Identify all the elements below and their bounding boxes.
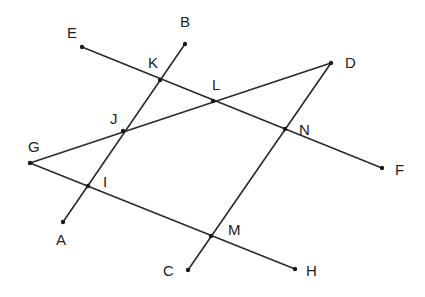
label-d: D xyxy=(345,54,356,71)
label-f: F xyxy=(395,161,404,178)
point-e xyxy=(80,45,84,49)
label-a: A xyxy=(56,231,66,248)
point-d xyxy=(329,61,333,65)
label-e: E xyxy=(67,24,77,41)
label-l: L xyxy=(212,76,220,93)
label-i: I xyxy=(103,173,107,190)
point-m xyxy=(209,234,213,238)
label-b: B xyxy=(180,13,190,30)
label-m: M xyxy=(228,221,241,238)
label-k: K xyxy=(148,54,158,71)
label-h: H xyxy=(306,262,317,279)
segment-gd xyxy=(30,63,331,163)
label-g: G xyxy=(28,138,40,155)
point-f xyxy=(380,166,384,170)
point-l xyxy=(211,99,215,103)
label-j: J xyxy=(110,110,118,127)
geometry-diagram: ABCDEFGHIJKLMN xyxy=(0,0,425,297)
segment-ab xyxy=(63,44,185,222)
points xyxy=(28,42,384,272)
point-b xyxy=(183,42,187,46)
point-i xyxy=(86,184,90,188)
segment-cd xyxy=(188,63,331,270)
segment-gh xyxy=(30,163,295,269)
point-n xyxy=(283,127,287,131)
point-g xyxy=(28,161,32,165)
point-labels: ABCDEFGHIJKLMN xyxy=(28,13,404,279)
point-j xyxy=(121,129,125,133)
point-c xyxy=(186,268,190,272)
point-k xyxy=(158,78,162,82)
segment-ef xyxy=(82,47,382,168)
point-h xyxy=(293,267,297,271)
label-n: N xyxy=(299,121,310,138)
line-segments xyxy=(30,44,382,270)
point-a xyxy=(61,220,65,224)
label-c: C xyxy=(163,262,174,279)
